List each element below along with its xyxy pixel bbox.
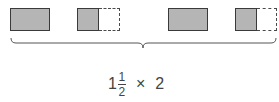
fraction-numerator: 1 — [119, 71, 126, 83]
fraction-denominator: 2 — [119, 86, 126, 98]
multiplication-expression: 1 1 2 × 2 — [108, 69, 164, 99]
multiplier: 2 — [155, 75, 164, 93]
multiply-operator: × — [136, 75, 145, 93]
mixed-number-whole: 1 — [108, 75, 117, 93]
mixed-number-fraction: 1 2 — [118, 71, 126, 98]
